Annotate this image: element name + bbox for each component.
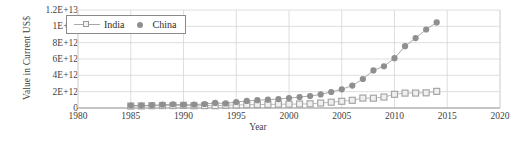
x-axis-title: Year [0,122,516,132]
x-tick-label: 2010 [375,111,415,122]
x-tick-label: 2015 [427,111,467,122]
x-tick-label: 1985 [111,111,151,122]
legend-item-china[interactable]: China [131,19,179,30]
chart-legend: IndiaChina [66,15,186,34]
x-tick-label: 1980 [58,111,98,122]
legend-item-india[interactable]: India [74,19,127,30]
x-tick-label: 2005 [322,111,362,122]
legend-label: India [103,19,127,30]
x-tick-label: 2000 [269,111,309,122]
legend-open-square-icon [74,20,100,30]
legend-filled-circle-icon [131,20,149,30]
legend-label: China [152,19,179,30]
x-tick-label: 2020 [480,111,516,122]
x-tick-label: 1990 [164,111,204,122]
chart-container: Value in Current US$ 02E+124E+126E+128E+… [0,0,516,144]
x-tick-label: 1995 [216,111,256,122]
